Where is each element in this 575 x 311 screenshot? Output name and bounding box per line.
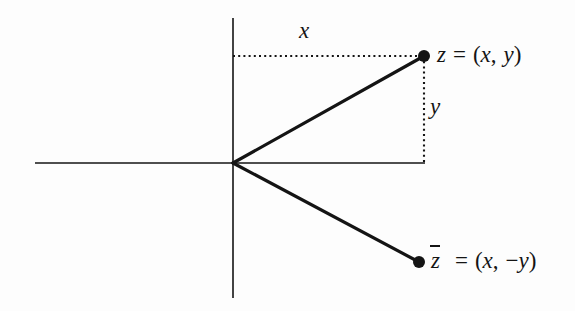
z-conjugate-paren-open: (: [475, 248, 483, 273]
z-conjugate-point-label: z=(x,−y): [430, 249, 536, 272]
x-segment-label: x: [299, 19, 309, 42]
z-conjugate-imaginary-part: y: [519, 248, 529, 273]
point-z-marker: [418, 50, 430, 62]
z-imaginary-part: y: [504, 42, 514, 67]
z-point-label: z=(x,y): [437, 43, 521, 66]
z-symbol: z: [437, 42, 446, 67]
z-real-part: x: [481, 42, 491, 67]
z-conjugate-symbol: z: [430, 249, 441, 272]
z-conjugate-paren-close: ): [529, 248, 537, 273]
z-conjugate-minus-sign: −: [506, 248, 519, 273]
z-paren-open: (: [473, 42, 481, 67]
z-comma: ,: [491, 42, 497, 67]
y-segment-label: y: [430, 95, 440, 118]
ray-to-z-conjugate: [233, 163, 419, 262]
complex-plane-figure: x y z=(x,y) z=(x,−y): [0, 0, 575, 311]
z-equals-sign: =: [453, 42, 466, 67]
z-conjugate-equals-sign: =: [455, 248, 468, 273]
z-conjugate-comma: ,: [493, 248, 499, 273]
z-conjugate-real-part: x: [483, 248, 493, 273]
z-paren-close: ): [514, 42, 522, 67]
ray-to-z: [233, 56, 424, 163]
point-z-conjugate-marker: [413, 256, 425, 268]
